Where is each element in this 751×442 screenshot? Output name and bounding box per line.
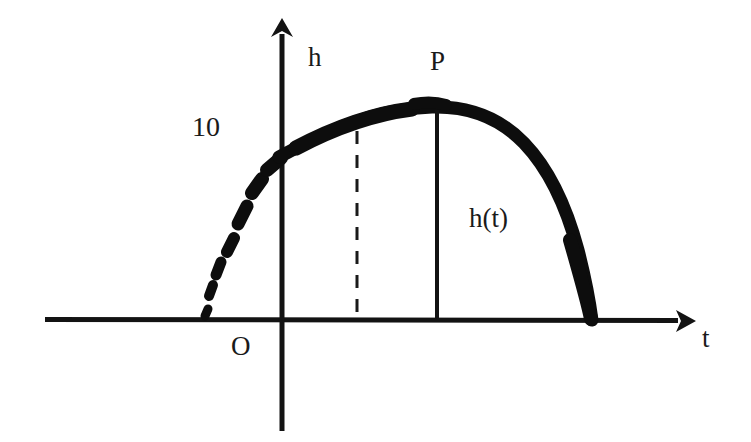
x-axis-line	[45, 320, 678, 321]
trajectory-ink-overlay-left	[296, 109, 412, 148]
x-axis-label: t	[702, 325, 710, 352]
dashed-curve-extension	[205, 158, 281, 316]
y-axis-label: h	[308, 44, 322, 71]
plot-graphics	[0, 0, 751, 442]
trajectory-ink-overlay-peak	[414, 103, 446, 105]
trajectory-ink-overlay-right	[570, 240, 591, 319]
peak-point-label: P	[430, 48, 445, 75]
figure-canvas: h P 10 h(t) O t	[0, 0, 751, 442]
y-intercept-value-label: 10	[192, 113, 220, 141]
curve-function-label: h(t)	[469, 205, 508, 232]
y-axis-group	[271, 18, 293, 431]
origin-label: O	[231, 333, 251, 360]
x-axis-arrowhead	[676, 310, 696, 332]
